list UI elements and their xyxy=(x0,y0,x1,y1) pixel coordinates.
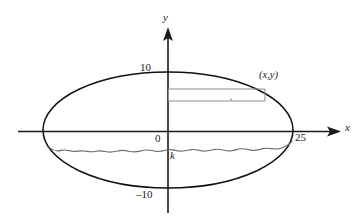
strip-midpoint-dot xyxy=(230,99,232,101)
figure-graphics xyxy=(0,0,363,224)
y-axis-label: y xyxy=(163,12,168,23)
origin-label: 0 xyxy=(155,133,161,144)
figure-canvas: y x 10 –10 25 0 k (x,y) xyxy=(0,0,363,224)
horizontal-strip xyxy=(168,89,265,101)
point-label-xy: (x,y) xyxy=(259,70,278,81)
depth-label-k: k xyxy=(170,150,175,161)
y-tick-label-10: 10 xyxy=(140,62,151,73)
y-tick-label-minus-10: –10 xyxy=(136,189,153,200)
x-tick-label-25: 25 xyxy=(295,132,306,143)
x-axis-label: x xyxy=(345,122,350,133)
